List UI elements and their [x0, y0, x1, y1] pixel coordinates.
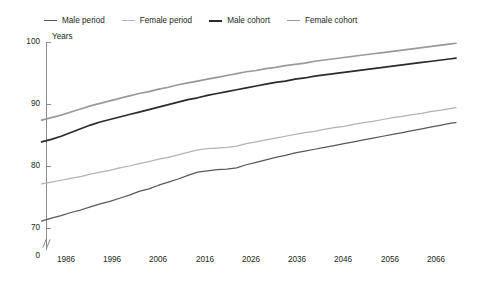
- chart-container: Male period Female period Male cohort Fe…: [0, 0, 483, 289]
- chart-plot-area: [0, 0, 483, 289]
- series-line-female-cohort: [42, 43, 456, 120]
- series-line-female-period: [42, 108, 456, 184]
